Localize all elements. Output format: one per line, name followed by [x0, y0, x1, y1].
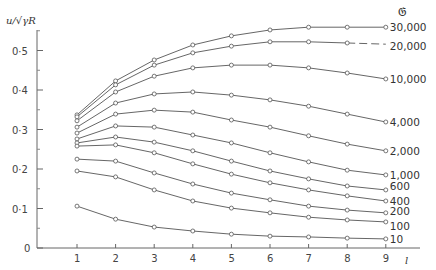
data-point-marker — [75, 115, 79, 119]
series-line — [77, 27, 386, 115]
series-100 — [75, 169, 388, 224]
series-label: 10,000 — [390, 73, 427, 85]
data-point-marker — [152, 140, 156, 144]
x-tick-label: 1 — [74, 253, 80, 264]
x-tick-label: 6 — [267, 253, 273, 264]
x-tick-label: 4 — [190, 253, 196, 264]
data-point-marker — [345, 218, 349, 222]
data-point-marker — [152, 225, 156, 229]
data-point-marker — [152, 171, 156, 175]
data-point-marker — [307, 66, 311, 70]
data-point-marker — [307, 104, 311, 108]
x-axis: 123456789 — [37, 244, 420, 264]
series-label: 4,000 — [390, 116, 420, 128]
data-point-marker — [268, 169, 272, 173]
series-label: 200 — [390, 205, 410, 217]
series-label: 10 — [390, 233, 403, 245]
data-point-marker — [75, 157, 79, 161]
y-tick-label: 0 — [24, 243, 30, 254]
data-point-marker — [384, 237, 388, 241]
data-point-marker — [384, 199, 388, 203]
x-tick-label: 9 — [383, 253, 389, 264]
data-point-marker — [191, 162, 195, 166]
series-line — [77, 171, 386, 222]
data-point-marker — [345, 168, 349, 172]
data-point-marker — [191, 182, 195, 186]
x-tick-label: 2 — [113, 253, 119, 264]
data-point-marker — [268, 28, 272, 32]
x-axis-title: l — [405, 255, 408, 266]
data-point-marker — [384, 25, 388, 29]
data-point-marker — [114, 124, 118, 128]
data-point-marker — [345, 112, 349, 116]
data-point-marker — [191, 43, 195, 47]
data-point-marker — [268, 125, 272, 129]
data-point-marker — [384, 77, 388, 81]
data-point-marker — [345, 71, 349, 75]
data-point-marker — [229, 118, 233, 122]
data-point-marker — [114, 135, 118, 139]
data-point-marker — [268, 98, 272, 102]
data-point-marker — [152, 63, 156, 67]
data-point-marker — [75, 169, 79, 173]
series-label: 600 — [390, 180, 410, 192]
data-point-marker — [268, 63, 272, 67]
data-point-marker — [114, 143, 118, 147]
data-point-marker — [191, 110, 195, 114]
series-label: 100 — [390, 220, 410, 232]
data-point-marker — [307, 204, 311, 208]
data-point-marker — [75, 119, 79, 123]
data-point-marker — [307, 40, 311, 44]
data-point-marker — [75, 131, 79, 135]
data-point-marker — [307, 160, 311, 164]
y-tick-label: 0·3 — [12, 125, 28, 136]
data-point-marker — [268, 151, 272, 155]
data-point-marker — [307, 235, 311, 239]
y-tick-label: 0·1 — [12, 204, 28, 215]
data-point-marker — [152, 125, 156, 129]
data-point-marker — [229, 172, 233, 176]
data-point-marker — [229, 63, 233, 67]
series-labels: 30,00020,00010,0004,0002,0001,0006004002… — [390, 21, 427, 245]
x-tick-label: 5 — [228, 253, 234, 264]
data-point-marker — [75, 137, 79, 141]
series-lines — [75, 25, 388, 241]
data-point-marker — [75, 125, 79, 129]
series-30000 — [75, 25, 388, 117]
data-point-marker — [229, 232, 233, 236]
y-tick-label: 0·4 — [12, 85, 28, 96]
data-point-marker — [229, 93, 233, 97]
data-point-marker — [191, 90, 195, 94]
data-point-marker — [114, 159, 118, 163]
data-point-marker — [229, 159, 233, 163]
series-4000 — [75, 90, 388, 129]
data-point-marker — [229, 206, 233, 210]
data-point-marker — [229, 141, 233, 145]
data-point-marker — [345, 184, 349, 188]
data-point-marker — [384, 211, 388, 215]
data-point-marker — [229, 191, 233, 195]
x-tick-label: 3 — [151, 253, 157, 264]
data-point-marker — [191, 51, 195, 55]
data-point-marker — [268, 181, 272, 185]
series-line — [77, 159, 386, 213]
data-point-marker — [75, 204, 79, 208]
line-chart: 00·10·20·30·40·5 123456789 30,00020,0001… — [0, 0, 436, 270]
data-point-marker — [268, 40, 272, 44]
data-point-marker — [152, 58, 156, 62]
data-point-marker — [345, 142, 349, 146]
data-point-marker — [114, 112, 118, 116]
data-point-marker — [114, 101, 118, 105]
series-line — [77, 126, 386, 175]
data-point-marker — [345, 236, 349, 240]
legend-title: 𝔊 — [398, 5, 407, 19]
data-point-marker — [229, 34, 233, 38]
data-point-marker — [384, 220, 388, 224]
data-point-marker — [191, 66, 195, 70]
data-point-marker — [191, 133, 195, 137]
series-label: 20,000 — [390, 40, 427, 52]
x-tick-label: 8 — [344, 253, 350, 264]
data-point-marker — [384, 120, 388, 124]
data-point-marker — [345, 41, 349, 45]
data-point-marker — [307, 215, 311, 219]
